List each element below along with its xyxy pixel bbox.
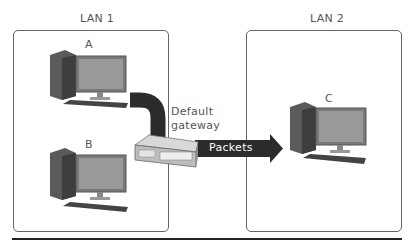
computer-c-icon [290, 102, 366, 164]
computer-b-label: B [85, 138, 93, 151]
packets-arrow-head [270, 134, 283, 163]
computer-b-icon [50, 148, 128, 212]
gateway-label-line2: gateway [171, 119, 220, 132]
computer-c-label: C [325, 92, 333, 105]
gateway-router-icon [135, 135, 198, 167]
computer-a-icon [50, 50, 128, 108]
computer-a-label: A [85, 38, 93, 51]
packets-label: Packets [209, 141, 253, 154]
gateway-label-line1: Default [171, 105, 213, 118]
